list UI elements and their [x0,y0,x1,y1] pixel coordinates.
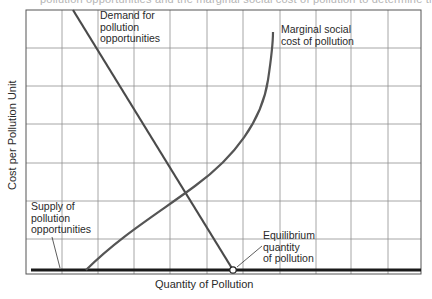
supply-label: Supply of pollution opportunities [31,201,91,236]
y-axis-label: Cost per Pollution Unit [6,81,18,190]
supply-callout-line [52,237,60,268]
msc-curve [86,32,273,270]
chart-canvas [0,0,432,299]
equilibrium-label: Equilibrium quantity of pollution [263,230,315,265]
demand-line [73,10,233,270]
x-axis-label: Quantity of Pollution [155,278,253,290]
equilibrium-point [230,267,236,273]
msc-label: Marginal social cost of pollution [281,24,354,47]
demand-label: Demand for pollution opportunities [100,10,160,45]
equilibrium-callout-line [237,246,262,267]
